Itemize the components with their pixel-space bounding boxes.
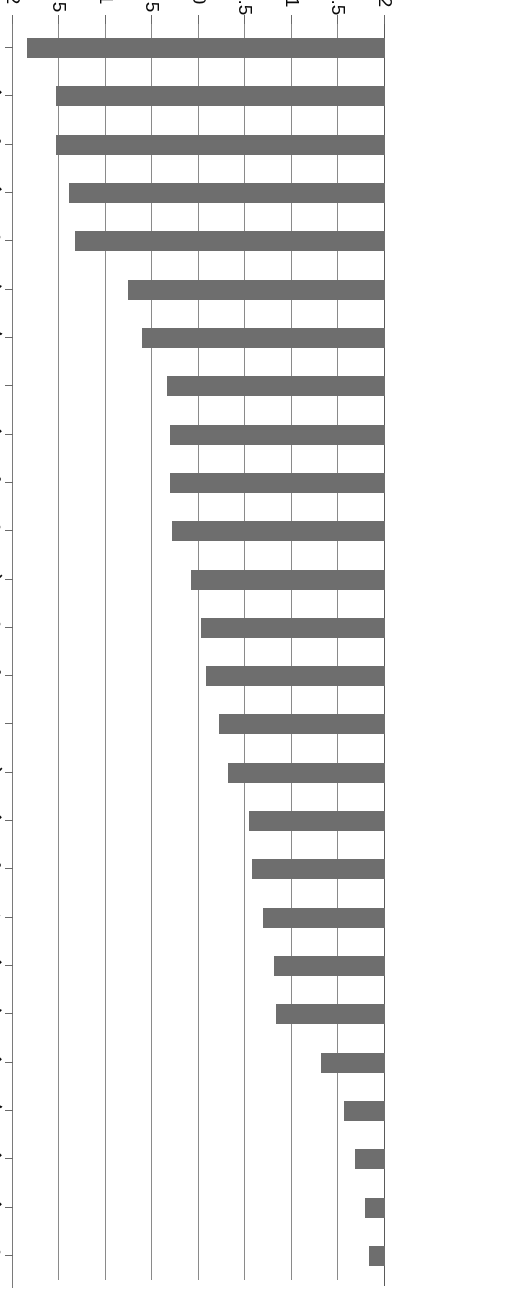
- category-tick: [5, 337, 13, 338]
- category-tick: [5, 627, 13, 628]
- value-axis-tick-label: -2: [374, 0, 396, 19]
- bar: [201, 618, 385, 638]
- bar: [276, 1004, 385, 1024]
- value-axis-tick-label: 0: [188, 0, 210, 19]
- value-axis-tick: [152, 15, 153, 24]
- value-axis-tick: [245, 15, 246, 24]
- value-axis-tick: [384, 15, 385, 24]
- bar: [344, 1101, 385, 1121]
- value-axis-tick-label: 2: [2, 0, 24, 19]
- value-axis-tick: [12, 15, 13, 24]
- value-axis-tick: [59, 15, 60, 24]
- bar: [219, 714, 385, 734]
- gridline--0.5: [245, 24, 246, 1280]
- bar: [27, 38, 385, 58]
- category-tick: [5, 772, 13, 773]
- value-axis-tick-label: 1: [95, 0, 117, 19]
- category-tick: [5, 47, 13, 48]
- category-label: Thurgau: [0, 566, 5, 617]
- value-axis-baseline: [384, 18, 385, 1286]
- category-label: Vaud: [0, 1097, 5, 1132]
- category-tick: [5, 723, 13, 724]
- value-axis-tick: [338, 15, 339, 24]
- bar: [191, 570, 385, 590]
- bar: [355, 1149, 385, 1169]
- bar: [69, 183, 385, 203]
- category-tick: [5, 144, 13, 145]
- category-label: Basel-City: [0, 1146, 5, 1206]
- category-tick: [5, 1013, 13, 1014]
- category-tick: [5, 192, 13, 193]
- category-label: Schwyz: [0, 131, 5, 179]
- category-label: Glarus: [0, 518, 5, 561]
- bar: [172, 521, 385, 541]
- bar: [56, 86, 385, 106]
- category-label: Ticino: [0, 759, 5, 799]
- category-label: Solothurn: [0, 662, 5, 720]
- category-label: Valais: [0, 324, 5, 364]
- category-tick: [5, 240, 13, 241]
- bar: [321, 1053, 385, 1073]
- value-axis-tick-label: -1.5: [328, 0, 350, 19]
- bar: [252, 859, 385, 879]
- plot-frame-edge: [12, 16, 13, 1288]
- bar: [249, 811, 385, 831]
- value-axis-tick-label: -1: [281, 0, 303, 19]
- plot-area: App. Inner-RNidwaldenSchwyzUriObwaldenZu…: [13, 24, 385, 1280]
- category-label: Berne: [0, 1049, 5, 1089]
- value-axis-tick-label: -0.5: [235, 0, 257, 19]
- category-tick: [5, 1255, 13, 1256]
- category-label: Aargau: [0, 373, 5, 419]
- category-tick: [5, 675, 13, 676]
- category-label: Fribourg: [0, 807, 5, 859]
- category-tick: [5, 868, 13, 869]
- category-tick: [5, 917, 13, 918]
- value-axis-tick: [198, 15, 199, 24]
- bar: [206, 666, 385, 686]
- category-label: St Gall: [0, 469, 5, 512]
- category-tick: [5, 95, 13, 96]
- category-tick: [5, 1110, 13, 1111]
- gridline-1: [105, 24, 106, 1280]
- category-tick: [5, 1062, 13, 1063]
- value-axis-tick: [105, 15, 106, 24]
- gridline--1: [291, 24, 292, 1280]
- category-tick: [5, 1207, 13, 1208]
- bar: [75, 231, 385, 251]
- bar: [263, 908, 385, 928]
- category-tick: [5, 820, 13, 821]
- category-tick: [5, 1158, 13, 1159]
- category-label: Obwalden: [0, 228, 5, 287]
- bar-chart-figure: App. Inner-RNidwaldenSchwyzUriObwaldenZu…: [0, 0, 518, 1300]
- value-axis-tick-label: 1.5: [49, 0, 71, 19]
- gridline--1.5: [338, 24, 339, 1280]
- category-tick: [5, 385, 13, 386]
- category-label: Geneva: [0, 1242, 5, 1290]
- category-tick: [5, 579, 13, 580]
- category-tick: [5, 482, 13, 483]
- category-label: Lucerne: [0, 421, 5, 471]
- bar: [365, 1198, 385, 1218]
- bar: [369, 1246, 385, 1266]
- category-tick: [5, 434, 13, 435]
- category-tick: [5, 965, 13, 966]
- category-label: Nidwalden: [0, 83, 5, 144]
- value-axis-tick: [291, 15, 292, 24]
- category-label: Basel-Country: [0, 952, 5, 1032]
- category-tick: [5, 289, 13, 290]
- category-label: Schaffhausen: [0, 856, 5, 933]
- bar: [274, 956, 385, 976]
- bar: [142, 328, 385, 348]
- bar: [167, 376, 385, 396]
- bar: [228, 763, 385, 783]
- bar: [128, 280, 385, 300]
- value-axis-tick-label: 0.5: [142, 0, 164, 19]
- gridline-0: [198, 24, 199, 1280]
- bar: [56, 135, 385, 155]
- category-tick: [5, 530, 13, 531]
- category-label: Uri: [0, 179, 5, 204]
- gridline-1.5: [59, 24, 60, 1280]
- category-label: Jura: [0, 904, 5, 936]
- category-label: Neuchatel: [0, 1194, 5, 1253]
- category-label: Zurich: [0, 1001, 5, 1043]
